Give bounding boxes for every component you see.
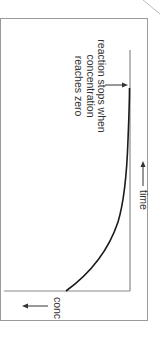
corner-decoration — [143, 0, 160, 14]
diagram-canvas: reaction stops when concentration reache… — [0, 0, 160, 344]
time-label: time — [138, 190, 150, 210]
time-label-group: time — [138, 190, 150, 210]
annotation-text: reaction stops when concentration reache… — [73, 39, 108, 133]
annotation-arrow-head-icon — [122, 83, 128, 88]
annotation-line-3: reaches zero — [73, 56, 85, 117]
conc-arrow-head-icon — [22, 304, 28, 309]
conc-label-group: conc — [52, 297, 64, 319]
annotation-line-1: reaction stops when — [96, 39, 108, 133]
annotation-line-2: concentration — [85, 54, 97, 117]
time-arrow-head-icon — [141, 161, 146, 167]
conc-label: conc — [52, 297, 64, 319]
